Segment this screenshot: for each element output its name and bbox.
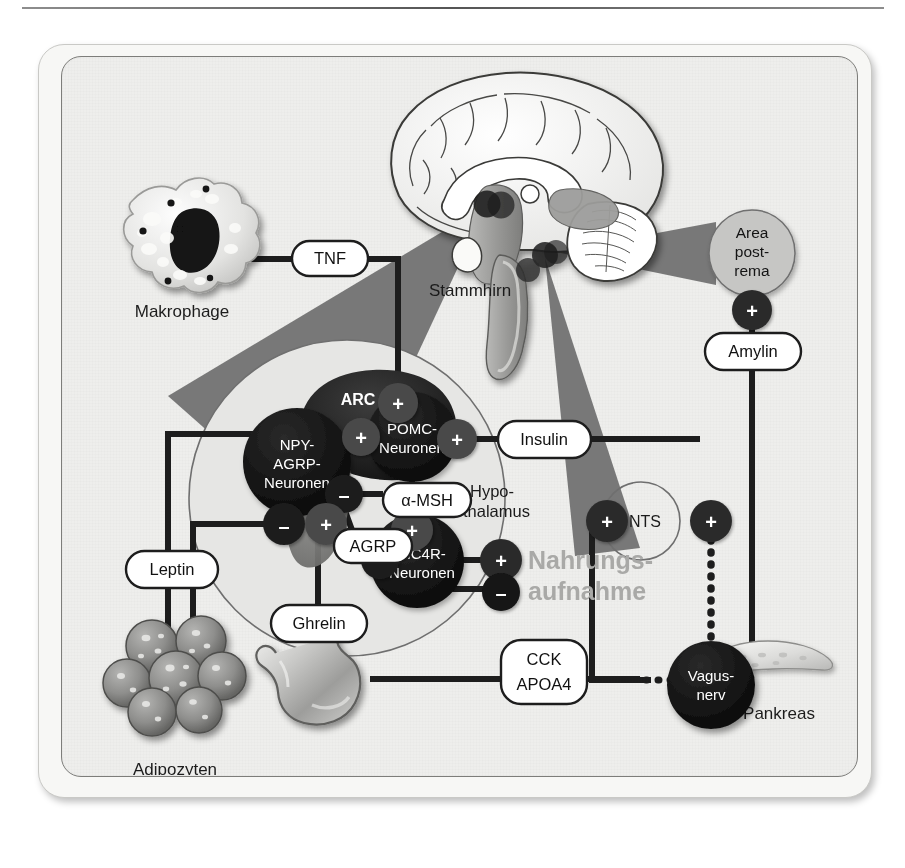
adipozyten-label: Adipozyten xyxy=(133,760,217,779)
pill-amylin: Amylin xyxy=(705,333,801,370)
makrophage-illustration xyxy=(124,178,260,292)
sign-node-leptin-npy-minus: – xyxy=(263,503,305,545)
brain-illustration xyxy=(391,73,663,380)
pill-tnf: TNF xyxy=(292,241,368,276)
sign-minus-leptin-npy: – xyxy=(278,515,289,537)
npy-agrp-label-line1: NPY- xyxy=(280,436,314,453)
arc-label: ARC xyxy=(341,391,376,408)
vagusnerv-node xyxy=(667,641,755,729)
area-postrema-label-line2: post- xyxy=(735,243,769,260)
pankreas-label: Pankreas xyxy=(743,704,815,723)
sign-node-tnf-plus: + xyxy=(378,383,418,423)
pill-insulin: Insulin xyxy=(498,421,591,458)
pill-agrp: AGRP xyxy=(334,529,412,563)
sign-node-insulin-plus: + xyxy=(437,419,477,459)
vagusnerv-label-line2: nerv xyxy=(696,686,726,703)
apoa4-label: APOA4 xyxy=(516,675,571,693)
area-postrema-label-line1: Area xyxy=(736,224,769,241)
npy-agrp-label-line3: Neuronen xyxy=(264,474,330,491)
magen-darm-trakt-label: Magen-Darm-Trakt xyxy=(269,782,412,801)
sign-minus-npy-pomc: – xyxy=(338,484,349,506)
pathway-diagram: Stammhirn Area post- rema xyxy=(0,0,905,868)
sign-node-outcome-minus: – xyxy=(482,573,520,611)
adipozyten-illustration xyxy=(103,616,246,736)
sign-plus-tnf: + xyxy=(392,393,404,415)
pomc-label-line2: Neuronen xyxy=(379,439,445,456)
insulin-label: Insulin xyxy=(520,430,568,448)
sign-plus-amylin: + xyxy=(746,300,758,322)
mc4r-label-line2: Neuronen xyxy=(389,564,455,581)
stammhirn-label: Stammhirn xyxy=(429,281,511,300)
sign-plus-nts-left: + xyxy=(601,511,613,533)
cck-label: CCK xyxy=(527,650,562,668)
npy-agrp-label-line2: AGRP- xyxy=(273,455,321,472)
pill-cck-apoa4: CCK APOA4 xyxy=(501,640,587,704)
pill-ghrelin: Ghrelin xyxy=(271,605,367,642)
sign-plus-ghrelin: + xyxy=(320,514,332,536)
pill-alpha-msh: α-MSH xyxy=(383,483,471,517)
area-postrema-node: Area post- rema xyxy=(709,210,795,296)
sign-plus-insulin: + xyxy=(451,429,463,451)
tnf-label: TNF xyxy=(314,249,346,267)
alpha-msh-label: α-MSH xyxy=(401,491,453,509)
nahrungsaufnahme-line1: Nahrungs- xyxy=(528,546,653,574)
figure-stage: Stammhirn Area post- rema xyxy=(0,0,905,868)
sign-node-nts-left-plus: + xyxy=(586,500,628,542)
nts-label: NTS xyxy=(629,513,661,530)
hypothalamus-label-line1: Hypo- xyxy=(470,482,514,500)
hypothalamus-label-line2: thalamus xyxy=(463,502,530,520)
sign-plus-leptin-pomc: + xyxy=(355,427,367,449)
sign-plus-outcome: + xyxy=(495,550,507,572)
agrp-label: AGRP xyxy=(350,537,397,555)
sign-node-leptin-pomc-plus: + xyxy=(342,418,380,456)
area-postrema-label-line3: rema xyxy=(734,262,770,279)
amylin-label: Amylin xyxy=(728,342,778,360)
sign-minus-outcome: – xyxy=(495,582,506,604)
makrophage-label: Makrophage xyxy=(135,302,230,321)
sign-plus-nts-right: + xyxy=(705,511,717,533)
nahrungsaufnahme-line2: aufnahme xyxy=(528,577,646,605)
vagusnerv-label-line1: Vagus- xyxy=(688,667,734,684)
leptin-label: Leptin xyxy=(150,560,195,578)
sign-node-nts-right-plus: + xyxy=(690,500,732,542)
ghrelin-label: Ghrelin xyxy=(292,614,345,632)
sign-node-amylin-plus: + xyxy=(732,290,772,330)
pill-leptin: Leptin xyxy=(126,551,218,588)
